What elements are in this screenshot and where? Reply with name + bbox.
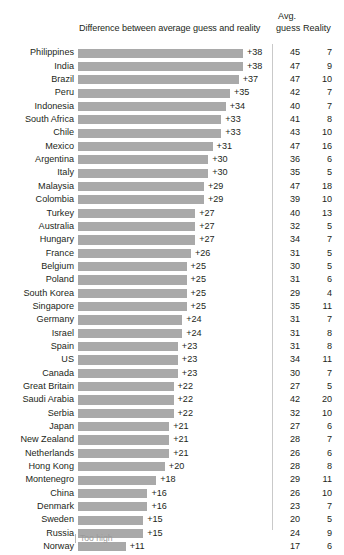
row-value-label: +25 [191,301,206,312]
bar-fill [78,195,204,204]
table-row: Montenegro+182911 [0,474,344,487]
bar-fill [78,369,178,378]
bar-fill [78,462,165,471]
bar-fill [78,409,174,418]
row-reality-value: 5 [312,167,332,178]
table-row: Spain+23318 [0,341,344,354]
row-reality-value: 8 [312,114,332,125]
row-value-label: +26 [195,248,210,259]
row-country-label: Indonesia [35,101,74,112]
bar-fill [78,89,230,98]
row-value-label: +25 [191,288,206,299]
bar-fill [78,355,178,364]
table-row: Belgium+25305 [0,261,344,274]
row-reality-value: 9 [312,61,332,72]
row-value-label: +15 [147,528,162,539]
row-country-label: Poland [46,274,74,285]
table-row: Poland+25316 [0,274,344,287]
bar-fill [78,102,226,111]
row-bar [78,249,191,258]
row-value-label: +38 [247,61,262,72]
row-avg-guess-value: 47 [278,61,300,72]
table-row: Mexico+314716 [0,140,344,153]
row-avg-guess-value: 39 [278,194,300,205]
table-row: India+38479 [0,60,344,73]
row-reality-value: 10 [312,408,332,419]
row-avg-guess-value: 29 [278,474,300,485]
table-row: Norway+11176 [0,541,344,554]
row-avg-guess-value: 35 [278,167,300,178]
row-value-label: +30 [212,154,227,165]
row-avg-guess-value: 27 [278,381,300,392]
row-country-label: Mexico [45,141,74,152]
row-country-label: Great Britain [23,381,74,392]
bar-fill [78,329,182,338]
row-country-label: Singapore [33,301,74,312]
row-avg-guess-value: 27 [278,421,300,432]
row-avg-guess-value: 32 [278,408,300,419]
row-country-label: Canada [42,368,74,379]
row-country-label: Colombia [36,194,74,205]
bar-fill [78,435,169,444]
bar-fill [78,262,187,271]
row-value-label: +27 [199,221,214,232]
bar-fill [78,502,147,511]
row-avg-guess-value: 34 [278,234,300,245]
row-avg-guess-value: 23 [278,501,300,512]
row-bar [78,422,169,431]
row-bar [78,382,174,391]
row-value-label: +33 [225,114,240,125]
row-bar [78,369,178,378]
row-value-label: +23 [182,368,197,379]
row-value-label: +22 [178,408,193,419]
bar-fill [78,235,195,244]
bar-fill [78,75,239,84]
row-bar [78,435,169,444]
bar-fill [78,129,221,138]
column-header-reality: Reality [303,23,331,33]
bar-fill [78,222,195,231]
table-row: Italy+30355 [0,167,344,180]
row-reality-value: 6 [312,274,332,285]
row-bar [78,89,230,98]
row-avg-guess-value: 17 [278,541,300,552]
row-country-label: Netherlands [25,448,74,459]
bar-fill [78,275,187,284]
row-reality-value: 7 [312,87,332,98]
row-bar [78,49,243,58]
row-avg-guess-value: 41 [278,114,300,125]
row-reality-value: 5 [312,514,332,525]
row-country-label: Chile [53,127,74,138]
row-value-label: +25 [191,261,206,272]
row-bar [78,289,187,298]
column-header-avg-guess: guess [276,23,300,33]
row-avg-guess-value: 47 [278,141,300,152]
row-value-label: +33 [225,127,240,138]
row-reality-value: 6 [312,154,332,165]
row-country-label: Spain [51,341,74,352]
row-value-label: +35 [234,87,249,98]
row-reality-value: 8 [312,461,332,472]
row-country-label: Russia [46,528,74,539]
row-avg-guess-value: 31 [278,341,300,352]
row-country-label: Serbia [48,408,74,419]
row-avg-guess-value: 31 [278,314,300,325]
row-bar [78,342,178,351]
row-avg-guess-value: 30 [278,368,300,379]
row-bar [78,449,169,458]
row-bar [78,115,221,124]
bar-fill [78,395,174,404]
row-country-label: New Zealand [20,434,74,445]
row-country-label: Belgium [41,261,74,272]
row-value-label: +15 [147,514,162,525]
row-value-label: +27 [199,208,214,219]
column-header-avg-line1: Avg. [278,11,296,21]
row-country-label: Hong Kong [28,461,74,472]
row-country-label: Italy [57,167,74,178]
row-reality-value: 7 [312,501,332,512]
chart-rows: Philippines+38457India+38479Brazil+37471… [0,47,344,554]
table-row: Malaysia+294718 [0,180,344,193]
row-avg-guess-value: 28 [278,461,300,472]
table-row: New Zealand+21287 [0,434,344,447]
row-avg-guess-value: 24 [278,528,300,539]
